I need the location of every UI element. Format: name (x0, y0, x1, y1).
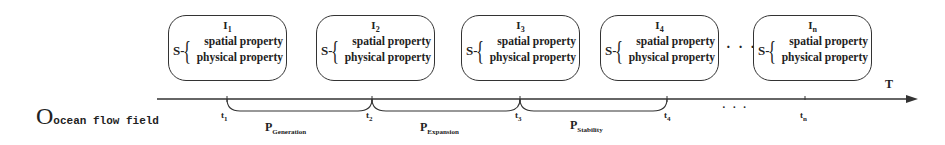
brace-expansion (372, 99, 520, 111)
state-box-2: I2 S- { spatial property physical proper… (316, 15, 435, 81)
state-index: I1 (169, 19, 286, 34)
spatial-property: spatial property (497, 35, 576, 47)
ocean-flow-field-timeline-diagram: I1 S- { spatial property physical proper… (0, 0, 945, 145)
physical-property: physical property (629, 51, 715, 63)
state-index: I2 (317, 19, 434, 34)
brace-icon: { (331, 38, 339, 64)
brace-stability (520, 99, 667, 111)
axis-label-time: T (885, 77, 893, 92)
state-box-1: I1 S- { spatial property physical proper… (168, 15, 287, 81)
tick-t3: t3 (515, 110, 522, 123)
brace-icon: { (615, 38, 623, 64)
phase-expansion: PExpansion (420, 120, 459, 136)
phase-generation: PGeneration (265, 120, 306, 136)
tick-t2: t2 (366, 110, 373, 123)
ellipsis-ticks: · · · (722, 101, 749, 113)
physical-property: physical property (197, 51, 283, 63)
axis-arrow-icon (906, 95, 918, 103)
physical-property: physical property (345, 51, 431, 63)
state-box-n: In S- { spatial property physical proper… (753, 15, 872, 81)
brace-icon: { (476, 38, 484, 64)
state-index: In (754, 19, 871, 34)
state-index: I4 (601, 19, 718, 34)
tick-t4: t4 (664, 110, 671, 123)
spatial-property: spatial property (204, 35, 283, 47)
state-box-4: I4 S- { spatial property physical proper… (600, 15, 719, 81)
spatial-property: spatial property (352, 35, 431, 47)
brace-generation (227, 99, 372, 111)
phase-stability: PStability (570, 118, 603, 134)
spatial-property: spatial property (789, 35, 868, 47)
state-box-3: I3 S- { spatial property physical proper… (461, 15, 580, 81)
brace-icon: { (768, 38, 776, 64)
brace-icon: { (183, 38, 191, 64)
tick-t1: t1 (221, 110, 228, 123)
origin-label: Oocean flow field (36, 103, 159, 130)
tick-tn: tn (800, 110, 807, 123)
state-index: I3 (462, 19, 579, 34)
spatial-property: spatial property (636, 35, 715, 47)
physical-property: physical property (490, 51, 576, 63)
physical-property: physical property (782, 51, 868, 63)
